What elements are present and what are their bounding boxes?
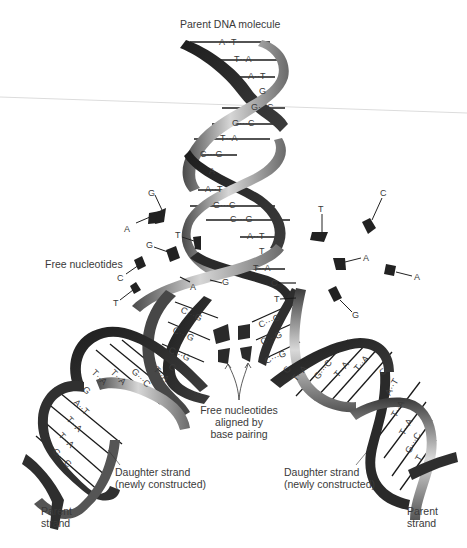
free-nucleotides-right: T C A A G [310, 188, 420, 320]
left-daughter-strand-label: Daughter strand (newly constructed) [115, 466, 206, 490]
base-pair-label: A··T [219, 37, 237, 47]
parent-helix [132, 40, 296, 312]
base-letter: T [175, 230, 181, 240]
aligned-nucleotide-right-2 [240, 346, 252, 362]
aligned-label-line-1: Free nucleotides [192, 404, 286, 416]
free-nucleotides-label: Free nucleotides [45, 258, 123, 270]
base-letter: A [414, 272, 420, 282]
free-nucleotide: C [362, 188, 387, 234]
base-pair-label: C···G [200, 149, 223, 159]
base-letter: T [113, 298, 119, 308]
right-daughter-line-2: (newly constructed) [284, 478, 375, 490]
base-pair-label: G [259, 86, 266, 96]
base-pair-label: T··A [234, 54, 252, 64]
base-letter: A [363, 253, 369, 263]
aligned-nucleotide-left-1 [213, 324, 230, 344]
base-pair-label: G···C [251, 102, 274, 112]
base-pair-label: T··A [220, 133, 238, 143]
base-pair-label: G···C [232, 118, 255, 128]
dna-replication-diagram: A G T G C T [0, 0, 467, 548]
base-letter: G [148, 188, 155, 198]
free-nucleotide: A [384, 264, 420, 282]
base-pair-label: A··T [247, 231, 265, 241]
pointer-arrows [225, 363, 251, 400]
base-pair-label: C···G [230, 214, 253, 224]
base-pair-label: G···C [213, 200, 236, 210]
base-letter: C [271, 278, 278, 288]
base-letter: C [380, 188, 387, 198]
aligned-nucleotides [213, 324, 252, 364]
left-parent-line-2: strand [41, 517, 72, 529]
free-nucleotide: G [328, 286, 359, 320]
aligned-nucleotides-label: Free nucleotides aligned by base pairing [192, 404, 286, 440]
base-pair-label: T··A [253, 263, 271, 273]
diagram-canvas: A G T G C T [0, 0, 467, 548]
free-nucleotide: A [124, 211, 160, 234]
left-daughter-line-1: Daughter strand [115, 466, 206, 478]
left-daughter-helix [22, 290, 218, 530]
base-pair-label: A··T [205, 184, 223, 194]
base-pair-label: T [259, 246, 265, 256]
base-pair-label: T··A [332, 359, 351, 379]
right-parent-strand-label: Parent strand [407, 505, 438, 529]
parent-dna-label: Parent DNA molecule [180, 18, 280, 30]
base-letter: A [124, 224, 130, 234]
right-parent-line-2: strand [407, 517, 438, 529]
left-parent-line-1: Parent [41, 505, 72, 517]
base-letter: T [318, 204, 324, 214]
right-parent-line-1: Parent [407, 505, 438, 517]
aligned-nucleotide-right-1 [238, 324, 250, 340]
base-letter: C [117, 273, 124, 283]
left-daughter-line-2: (newly constructed) [115, 478, 206, 490]
aligned-label-line-3: base pairing [192, 428, 286, 440]
base-letter: A [190, 282, 196, 292]
free-nucleotide: A [333, 253, 369, 270]
base-letter: G [146, 240, 153, 250]
guide-line [0, 97, 467, 113]
base-pair-label: A [209, 166, 215, 176]
free-nucleotide: T [310, 204, 328, 242]
right-daughter-line-1: Daughter strand [284, 466, 375, 478]
aligned-nucleotide-left-2 [218, 348, 230, 364]
left-parent-strand-label: Parent strand [41, 505, 72, 529]
aligned-label-line-2: aligned by [192, 416, 286, 428]
base-letter: G [352, 310, 359, 320]
free-nucleotide: G [146, 240, 180, 262]
base-letter: G [222, 277, 229, 287]
right-daughter-strand-label: Daughter strand (newly constructed) [284, 466, 375, 490]
base-pair-label: A··T [248, 71, 266, 81]
base-pair-label: A··T [72, 397, 92, 417]
base-letter: T [413, 453, 425, 463]
base-letter: T [274, 294, 280, 304]
